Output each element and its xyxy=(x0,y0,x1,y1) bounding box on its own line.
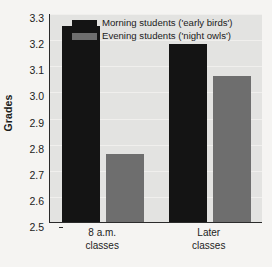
bar xyxy=(106,154,144,222)
bar-chart: Grades 3.33.23.13.02.92.82.72.62.5 Morni… xyxy=(0,0,272,267)
legend-label-morning: Morning students ('early birds') xyxy=(102,18,233,28)
x-axis-label-line: classes xyxy=(159,239,259,252)
y-axis-tick-label: 3.2 xyxy=(14,39,44,50)
y-axis-title: Grades xyxy=(2,83,14,143)
legend-item: Morning students ('early birds') xyxy=(72,17,233,29)
bars-layer xyxy=(50,14,262,222)
y-axis-tick-label: 2.5 xyxy=(14,222,44,233)
x-axis-group-label: 8 a.m.classes xyxy=(52,226,152,252)
bar xyxy=(213,76,251,222)
legend-label-evening: Evening students ('night owls') xyxy=(102,31,231,41)
y-axis-tick-label: 3.3 xyxy=(14,13,44,24)
y-axis-tick-labels: 3.33.23.13.02.92.82.72.62.5 xyxy=(14,16,44,222)
x-axis-group-labels: 8 a.m.classesLaterclasses xyxy=(49,226,262,264)
x-axis-group-label: Laterclasses xyxy=(159,226,259,252)
x-axis-label-line: classes xyxy=(52,239,152,252)
bar xyxy=(62,26,100,222)
y-axis-tick-label: 3.0 xyxy=(14,91,44,102)
plot-area: Morning students ('early birds') Evening… xyxy=(49,14,262,223)
y-axis-tick-label: 2.6 xyxy=(14,196,44,207)
y-axis-tick-label: 3.1 xyxy=(14,65,44,76)
y-axis-tick-label: 2.9 xyxy=(14,117,44,128)
y-axis-tick-label: 2.8 xyxy=(14,143,44,154)
x-axis-label-line: Later xyxy=(159,226,259,239)
legend-swatch-evening xyxy=(72,33,97,40)
y-axis-tick-label: 2.7 xyxy=(14,170,44,181)
chart-legend: Morning students ('early birds') Evening… xyxy=(72,17,233,43)
bar xyxy=(169,44,207,222)
legend-item: Evening students ('night owls') xyxy=(72,30,233,42)
x-axis-label-line: 8 a.m. xyxy=(52,226,152,239)
legend-swatch-morning xyxy=(72,20,97,27)
